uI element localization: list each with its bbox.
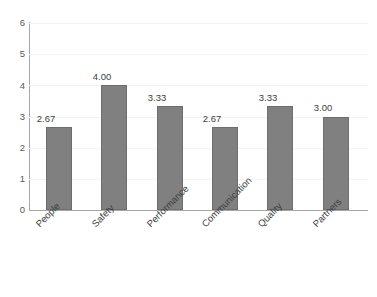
y-axis-tick-1: 1 bbox=[3, 174, 25, 184]
y-axis-tick-4: 4 bbox=[3, 81, 25, 91]
gridline-2 bbox=[29, 148, 368, 149]
bar-quality[interactable] bbox=[267, 106, 293, 210]
y-axis-tick-6: 6 bbox=[3, 18, 25, 28]
bar-slot-safety bbox=[101, 23, 127, 210]
y-axis-tick-2: 2 bbox=[3, 143, 25, 153]
bar-people[interactable] bbox=[46, 127, 72, 210]
gridline-1 bbox=[29, 179, 368, 180]
x-axis-baseline bbox=[29, 210, 368, 211]
y-axis-tick-5: 5 bbox=[3, 49, 25, 59]
data-label-safety: 4.00 bbox=[72, 72, 132, 82]
gridline-6 bbox=[29, 23, 368, 24]
bar-slot-quality bbox=[267, 23, 293, 210]
data-label-communication: 2.67 bbox=[182, 114, 242, 124]
bar-chart: 6 5 4 3 2 1 0 bbox=[0, 0, 377, 297]
data-label-partners: 3.00 bbox=[293, 103, 353, 113]
gridline-4 bbox=[29, 85, 368, 86]
data-label-quality: 3.33 bbox=[238, 93, 298, 103]
data-label-performance: 3.33 bbox=[127, 93, 187, 103]
bar-safety[interactable] bbox=[101, 85, 127, 210]
data-label-people: 2.67 bbox=[16, 114, 76, 124]
bar-slot-performance bbox=[157, 23, 183, 210]
y-axis-tick-0: 0 bbox=[3, 205, 25, 215]
gridline-5 bbox=[29, 54, 368, 55]
bar-slot-partners bbox=[323, 23, 349, 210]
y-axis-tick-labels: 6 5 4 3 2 1 0 bbox=[0, 0, 25, 297]
